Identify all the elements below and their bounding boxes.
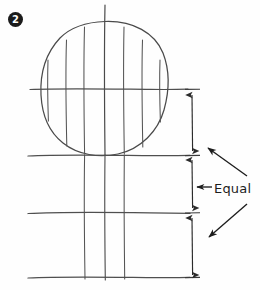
head-vertical-line-5 [124,27,125,154]
diagonal-arrow-down-left [209,204,247,237]
head-vertical-line-1 [48,60,49,121]
horizontal-guide-lines [28,89,190,278]
mid-body-line [28,212,190,213]
brow-line [30,89,188,90]
head-vertical-line-3 [84,27,85,154]
head-group [41,5,168,156]
equal-annotation-label: Equal [214,181,251,196]
body-vertical-line-right [124,155,125,279]
head-vertical-line-6 [142,40,143,147]
head-vertical-line-7 [160,60,161,122]
proportion-diagram [0,0,260,290]
diagonal-arrow-up-left [208,148,247,176]
body-vertical-lines [84,155,124,280]
body-vertical-line-center [105,155,106,280]
bottom-line [28,277,190,278]
dimension-segment-3 [192,218,193,275]
sketch-canvas: 2 [0,0,260,290]
chin-line [28,155,190,156]
dimension-arrows [192,95,193,275]
body-vertical-line-left [84,155,85,279]
dimension-segment-2 [192,160,193,208]
dimension-segment-1 [192,95,193,151]
head-vertical-line-2 [66,40,67,146]
